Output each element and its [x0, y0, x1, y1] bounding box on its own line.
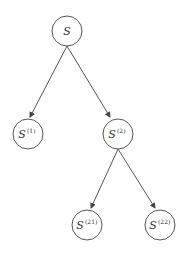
svg-text:S: S [108, 128, 116, 141]
edge-s2-to-s22 [118, 149, 155, 208]
svg-text:(22): (22) [158, 218, 170, 225]
node-s22-sup: (22) [158, 218, 170, 225]
node-s21-label: S [76, 219, 84, 232]
node-s2-label: S [108, 128, 116, 141]
node-s-label: S [63, 25, 71, 38]
svg-text:S: S [18, 128, 26, 141]
svg-text:S: S [149, 219, 157, 232]
edge-s2-to-s21 [91, 149, 118, 208]
node-s21-sup: (21) [85, 218, 97, 225]
node-s22-label: S [149, 219, 157, 232]
svg-text:(1): (1) [27, 127, 36, 134]
node-s2: S (2) [103, 119, 133, 149]
tree-diagram: S S (1) S (2) S (21) S (22) [0, 0, 188, 257]
edge-s-to-s1 [30, 46, 67, 117]
edge-s-to-s2 [67, 46, 110, 117]
svg-text:(2): (2) [117, 127, 126, 134]
node-s21: S (21) [72, 210, 102, 240]
svg-text:(21): (21) [85, 218, 97, 225]
node-s1-label: S [18, 128, 26, 141]
svg-text:S: S [76, 219, 84, 232]
node-s2-sup: (2) [117, 127, 126, 134]
svg-text:S: S [63, 25, 71, 38]
node-s1-sup: (1) [27, 127, 36, 134]
node-s22: S (22) [145, 210, 175, 240]
node-s1: S (1) [13, 119, 43, 149]
node-s: S [52, 16, 82, 46]
